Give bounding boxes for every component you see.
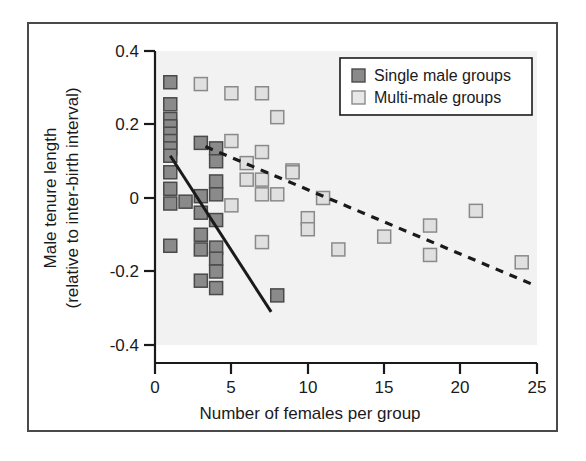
data-point bbox=[515, 256, 528, 269]
data-point bbox=[255, 173, 268, 186]
scatter-chart: 0.4 0.2 0 -0.2 -0.4 0 5 10 15 20 25 Numb… bbox=[0, 0, 586, 461]
data-point bbox=[271, 289, 284, 302]
y-tick-label--0.2: -0.2 bbox=[110, 262, 139, 281]
x-axis-title: Number of females per group bbox=[199, 404, 420, 423]
y-tick-label-0: 0 bbox=[130, 189, 139, 208]
data-point bbox=[210, 252, 223, 265]
figure-root: 0.4 0.2 0 -0.2 -0.4 0 5 10 15 20 25 Numb… bbox=[0, 0, 586, 461]
data-point bbox=[225, 199, 238, 212]
legend-marker-multi-male bbox=[352, 91, 365, 104]
legend-label-single-male: Single male groups bbox=[374, 67, 511, 84]
data-point bbox=[164, 166, 177, 179]
x-tick-label-10: 10 bbox=[299, 378, 318, 397]
data-point bbox=[164, 76, 177, 89]
data-point bbox=[332, 243, 345, 256]
data-point bbox=[210, 188, 223, 201]
data-point bbox=[286, 166, 299, 179]
data-point bbox=[301, 223, 314, 236]
data-point bbox=[194, 274, 207, 287]
data-point bbox=[469, 204, 482, 217]
data-point bbox=[378, 230, 391, 243]
data-point bbox=[225, 135, 238, 148]
legend: Single male groups Multi-male groups bbox=[340, 58, 532, 115]
data-point bbox=[424, 248, 437, 261]
legend-label-multi-male: Multi-male groups bbox=[374, 89, 501, 106]
y-axis-title-line2: (relative to inter-birth interval) bbox=[63, 87, 82, 308]
y-tick-label--0.4: -0.4 bbox=[110, 336, 139, 355]
data-point bbox=[164, 182, 177, 195]
x-ticks-group bbox=[155, 363, 537, 374]
data-point bbox=[271, 188, 284, 201]
data-point bbox=[194, 228, 207, 241]
data-point bbox=[424, 219, 437, 232]
x-tick-label-25: 25 bbox=[528, 378, 547, 397]
data-point bbox=[255, 87, 268, 100]
data-point bbox=[255, 188, 268, 201]
legend-marker-single-male bbox=[352, 69, 365, 82]
data-point bbox=[210, 175, 223, 188]
y-axis-title-line1: Male tenure length bbox=[41, 128, 60, 269]
data-point bbox=[210, 265, 223, 278]
data-point bbox=[164, 239, 177, 252]
data-point bbox=[179, 195, 192, 208]
data-point bbox=[255, 146, 268, 159]
y-ticks-group bbox=[144, 51, 155, 345]
y-tick-label-0.2: 0.2 bbox=[115, 115, 139, 134]
data-point bbox=[164, 197, 177, 210]
data-point bbox=[240, 173, 253, 186]
data-point bbox=[194, 78, 207, 91]
data-point bbox=[210, 282, 223, 295]
data-point bbox=[225, 87, 238, 100]
data-point bbox=[194, 243, 207, 256]
data-point bbox=[255, 236, 268, 249]
data-point bbox=[271, 111, 284, 124]
x-tick-label-15: 15 bbox=[375, 378, 394, 397]
data-point bbox=[240, 157, 253, 170]
data-point bbox=[164, 98, 177, 111]
x-tick-label-5: 5 bbox=[226, 378, 235, 397]
data-point bbox=[210, 155, 223, 168]
x-tick-label-20: 20 bbox=[451, 378, 470, 397]
y-tick-label-0.4: 0.4 bbox=[115, 42, 139, 61]
x-tick-label-0: 0 bbox=[150, 378, 159, 397]
